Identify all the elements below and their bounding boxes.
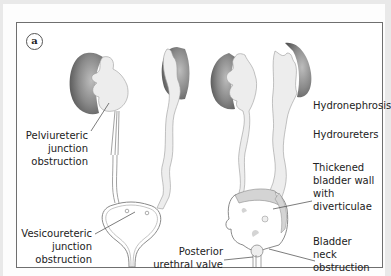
label-vesicoureteric-junction-obstruction: Vesicoureteric junction obstruction bbox=[20, 227, 92, 266]
label-line: Vesicoureteric bbox=[20, 227, 92, 240]
label-line: Bladder bbox=[313, 235, 370, 248]
label-line: junction bbox=[20, 240, 92, 253]
bladder-right bbox=[226, 189, 288, 267]
label-hydroureters: Hydroureters bbox=[313, 128, 379, 141]
label-line: neck bbox=[313, 248, 370, 261]
label-hydronephrosis: Hydronephrosis bbox=[313, 99, 391, 112]
kidney-right-1 bbox=[211, 53, 257, 195]
label-line: Pelviureteric bbox=[24, 129, 88, 142]
label-line: Thickened bbox=[313, 161, 374, 174]
label-thickened-bladder-wall: Thickened bladder wall with diverticulae bbox=[313, 161, 374, 213]
label-posterior-urethral-valve: Posterior urethral valve bbox=[147, 245, 223, 271]
panel-label-badge: a bbox=[26, 33, 43, 50]
kidney-right-2 bbox=[265, 43, 311, 205]
label-line: Posterior bbox=[147, 245, 223, 258]
label-line: urethral valve bbox=[147, 258, 223, 271]
label-line: obstruction bbox=[20, 253, 92, 266]
label-line: obstruction bbox=[24, 155, 88, 168]
label-bladder-neck-obstruction: Bladder neck obstruction bbox=[313, 235, 370, 274]
label-line: obstruction bbox=[313, 261, 370, 274]
label-pelviureteric-junction-obstruction: Pelviureteric junction obstruction bbox=[24, 129, 88, 168]
label-line: bladder wall bbox=[313, 174, 374, 187]
label-line: diverticulae bbox=[313, 200, 374, 213]
page: a Pelviureteric junction obstruction Ves… bbox=[3, 4, 385, 276]
figure-frame: a Pelviureteric junction obstruction Ves… bbox=[16, 22, 383, 268]
label-line: junction bbox=[24, 142, 88, 155]
label-line: with bbox=[313, 187, 374, 200]
kidney-left-2 bbox=[157, 47, 190, 209]
kidney-left-1 bbox=[70, 53, 128, 203]
